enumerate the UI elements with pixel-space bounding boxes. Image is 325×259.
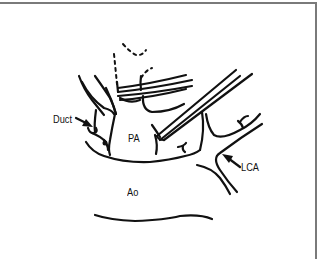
horizontal-bundle	[118, 75, 192, 102]
dashed-vessel-outline	[114, 44, 152, 84]
anatomy-drawing	[0, 0, 325, 259]
instrument-shaft	[157, 70, 252, 140]
label-duct: Duct	[53, 113, 72, 125]
duct-structure	[88, 128, 108, 150]
duct-arrow-icon	[76, 118, 93, 127]
lca-arrow-icon	[222, 154, 240, 167]
label-lca: LCA	[241, 161, 259, 173]
left-vessels	[79, 76, 116, 155]
aorta-lower-contour	[95, 215, 212, 221]
lca-branch	[197, 114, 262, 194]
pa-upper-contour	[143, 96, 184, 112]
label-ao: Ao	[127, 186, 138, 198]
label-pa: PA	[128, 132, 140, 144]
